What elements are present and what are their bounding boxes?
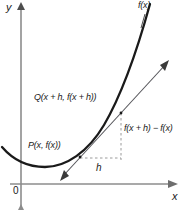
figure-canvas	[0, 0, 187, 213]
point-q-marker	[120, 112, 123, 115]
point-q-label: Q(x + h, f(x + h))	[34, 93, 96, 102]
function-curve	[2, 4, 150, 167]
rise-label: f(x + h) − f(x)	[124, 124, 173, 133]
x-axis-arrowhead	[168, 180, 178, 188]
function-curve-label: f(x)	[138, 1, 150, 10]
y-axis-label: y	[6, 2, 11, 13]
y-axis-bottom-arrowhead	[18, 204, 24, 210]
run-label: h	[96, 163, 101, 173]
point-p-marker	[79, 156, 82, 159]
x-axis-label: x	[172, 191, 177, 202]
origin-label: 0	[13, 186, 18, 196]
y-axis-arrowhead	[17, 2, 25, 10]
point-p-label: P(x, f(x))	[28, 141, 61, 150]
secant-line-figure: y x 0 f(x) Q(x + h, f(x + h)) P(x, f(x))…	[0, 0, 187, 213]
